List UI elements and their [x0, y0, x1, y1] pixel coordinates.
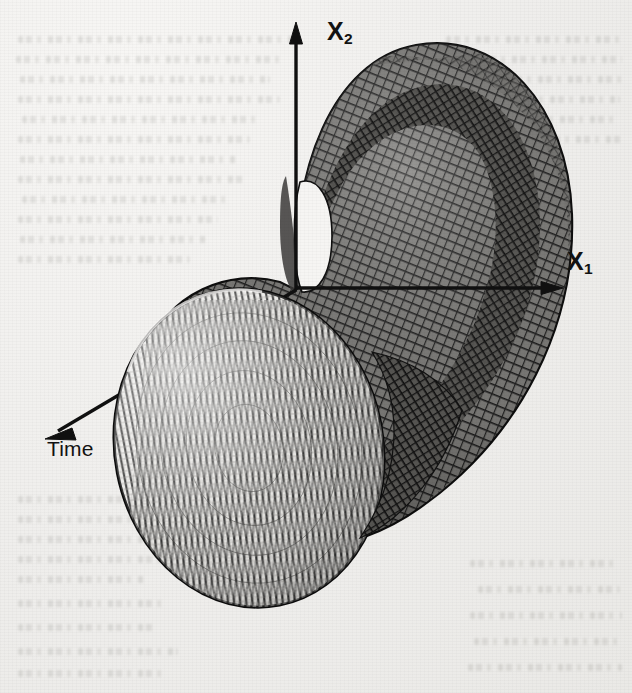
axis-label-time-text: Time	[47, 437, 94, 460]
axis-label-x1-subscript: 1	[584, 260, 593, 277]
axis-label-x2-subscript: 2	[344, 30, 353, 47]
figure-canvas: X1 X2 Time	[0, 0, 632, 693]
axis-label-x1-text: X	[567, 247, 584, 275]
axis-label-x1: X1	[567, 247, 593, 278]
surface-plot-svg	[0, 0, 632, 693]
axis-label-time: Time	[47, 437, 94, 461]
axis-label-x2: X2	[327, 17, 353, 48]
axis-label-x2-text: X	[327, 17, 344, 45]
